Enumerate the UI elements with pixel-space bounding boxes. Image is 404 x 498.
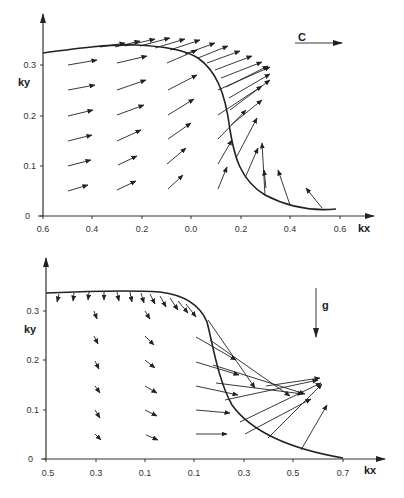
top-plot: 0 0.1 0.2 0.3 ky 0.6 0.4 0.2 0.0 0.2 0.4… bbox=[18, 14, 374, 234]
x-ticks: 0.5 0.3 0.1 0.1 0.3 0.5 0.7 bbox=[42, 459, 350, 478]
x-tick-label: 0.2 bbox=[235, 224, 248, 234]
x-tick-label: 0.1 bbox=[139, 468, 152, 478]
annotation-g: g bbox=[322, 299, 329, 311]
x-ticks: 0.6 0.4 0.2 0.0 0.2 0.4 0.6 bbox=[37, 216, 347, 234]
x-tick-label: 0.5 bbox=[42, 468, 55, 478]
y-tick-label: 0 bbox=[28, 454, 33, 464]
vector-field bbox=[68, 38, 322, 208]
x-tick-label: 0.2 bbox=[136, 224, 149, 234]
x-tick-label: 0.1 bbox=[188, 468, 201, 478]
x-tick-label: 0.4 bbox=[86, 224, 99, 234]
x-tick-label: 0.5 bbox=[287, 468, 300, 478]
x-axis-label: kx bbox=[364, 464, 377, 476]
y-tick-label: 0.1 bbox=[23, 161, 36, 171]
y-tick-label: 0 bbox=[25, 211, 30, 221]
y-tick-label: 0.1 bbox=[26, 405, 39, 415]
figure: 0 0.1 0.2 0.3 ky 0.6 0.4 0.2 0.0 0.2 0.4… bbox=[0, 0, 404, 498]
y-tick-label: 0.2 bbox=[23, 111, 36, 121]
x-axis-label: kx bbox=[358, 222, 371, 234]
x-tick-label: 0.0 bbox=[185, 224, 198, 234]
annotation-c: C bbox=[298, 31, 306, 43]
bottom-plot: 0 0.1 0.2 0.3 ky 0.5 0.3 0.1 0.1 0.3 0.5… bbox=[24, 258, 385, 478]
y-axis-label: ky bbox=[18, 76, 31, 88]
y-tick-label: 0.2 bbox=[26, 355, 39, 365]
x-tick-label: 0.3 bbox=[90, 468, 103, 478]
y-axis-label: ky bbox=[24, 323, 37, 335]
x-tick-label: 0.3 bbox=[238, 468, 251, 478]
y-tick-label: 0.3 bbox=[23, 60, 36, 70]
x-tick-label: 0.6 bbox=[37, 224, 50, 234]
y-tick-label: 0.3 bbox=[26, 306, 39, 316]
x-tick-label: 0.4 bbox=[284, 224, 297, 234]
vector-field bbox=[57, 292, 327, 450]
boundary-curve bbox=[46, 291, 343, 458]
x-tick-label: 0.7 bbox=[337, 468, 350, 478]
x-tick-label: 0.6 bbox=[334, 224, 347, 234]
